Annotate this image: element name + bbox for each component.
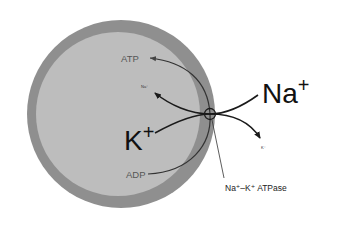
na-outside-label: Na+ — [262, 74, 309, 109]
atp-label: ATP — [121, 53, 139, 64]
k-outside-label: K⁺ — [261, 145, 266, 150]
cell-cytoplasm — [36, 32, 200, 196]
adp-label: ADP — [126, 169, 146, 180]
cell — [27, 20, 215, 208]
na-k-pump-diagram: ATP ADP Na⁺ K+ Na+ K⁺ Na⁺–K⁺ ATPase — [0, 0, 337, 227]
pump-leader-line — [212, 120, 224, 178]
na-inside-label: Na⁺ — [141, 84, 148, 89]
pump-label: Na⁺–K⁺ ATPase — [225, 183, 287, 193]
